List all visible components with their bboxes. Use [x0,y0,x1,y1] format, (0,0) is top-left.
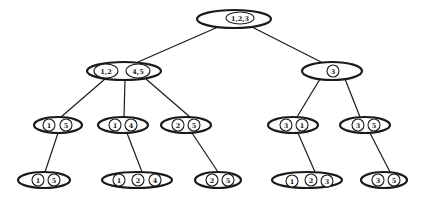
item-label: 5 [64,122,69,130]
tree-edges [45,27,390,172]
tree-node-n123: 123 [272,172,342,188]
tree-node-n35: 35 [340,117,390,133]
item-label: 3 [331,68,336,76]
item-label: 1,2 [100,68,111,76]
item-label: 5 [392,177,397,185]
item-label: 5 [192,122,197,130]
node-outline [161,117,211,133]
tree-node-n31: 31 [268,117,318,133]
tree-node-n124: 124 [102,172,172,188]
edge-root-n3 [252,27,323,63]
tree-node-n15b: 15 [18,172,70,188]
edge-n3-n35 [345,79,360,117]
edge-n25-n25b [192,133,218,172]
item-label: 5 [372,122,377,130]
item-label: 1 [290,178,295,186]
node-outline [34,117,82,133]
edge-n31-n123 [298,133,315,172]
tree-diagram: 1,2,31,24,531514253135151242512335 [0,0,430,197]
edge-n35-n35b [370,133,390,172]
item-label: 1 [36,177,41,185]
tree-node-n3: 3 [302,62,362,80]
item-label: 1,2,3 [231,15,250,23]
edge-n14-n124 [127,133,142,172]
item-label: 4 [153,177,158,185]
edge-n3-n31 [297,79,320,117]
node-outline [268,117,318,133]
item-label: 4,5 [132,68,144,76]
item-label: 1 [113,122,118,130]
item-label: 3 [284,122,289,130]
node-outline [340,117,390,133]
item-label: 4 [129,122,134,130]
item-label: 5 [226,177,231,185]
item-label: 5 [52,177,57,185]
item-label: 2 [176,122,181,130]
edge-root-n12_45 [138,27,218,62]
item-label: 2 [210,177,215,185]
edge-n15-n15b [45,133,58,172]
tree-node-root: 1,2,3 [197,10,271,28]
edge-n12_45-n15 [61,79,105,117]
tree-node-n14: 14 [98,117,148,133]
item-label: 1 [47,122,52,130]
item-label: 3 [325,178,330,186]
node-outline [98,117,148,133]
tree-node-n15: 15 [34,117,82,133]
tree-node-n25b: 25 [195,172,241,188]
edge-n12_45-n25 [146,79,190,117]
tree-node-n12_45: 1,24,5 [87,62,161,80]
item-label: 1 [300,122,305,130]
item-label: 3 [356,122,361,130]
item-label: 2 [309,177,314,185]
edge-n12_45-n14 [124,80,125,117]
tree-node-n35b: 35 [361,172,407,188]
item-label: 3 [376,177,381,185]
tree-node-n25: 25 [161,117,211,133]
item-label: 2 [136,177,141,185]
tree-nodes: 1,2,31,24,531514253135151242512335 [18,10,407,188]
item-label: 1 [117,177,122,185]
